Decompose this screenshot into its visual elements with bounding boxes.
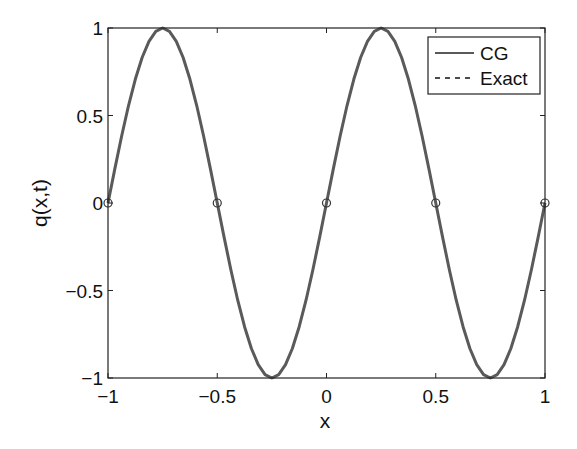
x-axis-label: x: [320, 409, 331, 432]
x-tick-label: 1: [540, 386, 551, 407]
legend: CG Exact: [428, 37, 540, 94]
x-tick-label: 0.5: [423, 386, 449, 407]
y-tick-label: 0: [92, 193, 103, 214]
x-tick-label: −0.5: [198, 386, 236, 407]
y-tick-label: −1: [81, 368, 103, 389]
legend-label-exact: Exact: [480, 68, 528, 89]
y-tick-label: 1: [92, 18, 103, 39]
y-tick-label: 0.5: [77, 106, 103, 127]
line-chart: −1−0.500.51 −1−0.500.51 x q(x,t) CG Exac…: [0, 0, 577, 449]
x-tick-label: 0: [321, 386, 332, 407]
legend-label-cg: CG: [480, 43, 509, 64]
x-tick-label: −1: [97, 386, 119, 407]
y-tick-label: −0.5: [65, 281, 103, 302]
y-axis-label: q(x,t): [28, 179, 51, 227]
